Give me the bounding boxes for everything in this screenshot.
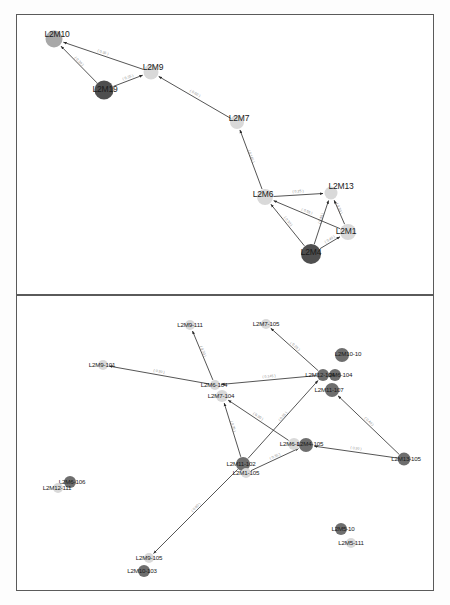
node-label: L2M1-105: [233, 469, 259, 476]
graph-edge: [251, 449, 298, 471]
node-label: L2M13: [329, 181, 354, 191]
graph-edge: [314, 446, 397, 458]
node-label: L2M9-111: [177, 321, 202, 328]
graph-edge: [271, 204, 304, 245]
edge-layer: [17, 296, 433, 590]
node-label: L2M1: [336, 226, 356, 236]
node-label: L2M4: [301, 247, 321, 257]
graph-edge: [224, 403, 241, 457]
graph-edge: [154, 469, 238, 553]
graph-edge: [320, 237, 340, 249]
graph-edge: [228, 400, 288, 440]
node-label: L2M9-101: [89, 361, 115, 368]
graph-edge: [314, 201, 328, 244]
node-label: L2M11-107: [314, 386, 343, 393]
node-label: L2M9: [143, 62, 163, 72]
node-label: L2M4-105: [297, 440, 323, 447]
node-label: L2M12-111: [43, 484, 72, 491]
upper-panel-canvas: ( 0.35 )( 0.30 )( 0.35 )( 0.60 )( 0.145 …: [17, 15, 433, 294]
node-label: L2M5-111: [338, 539, 363, 546]
graph-edge: [193, 331, 213, 380]
graph-edge: [240, 130, 262, 189]
graph-edge: [334, 200, 344, 224]
graph-edge: [159, 77, 231, 119]
graph-edge: [109, 366, 209, 384]
node-label: L2M10: [45, 29, 70, 39]
node-label: L2M5-10: [331, 525, 354, 532]
node-label: L2M12-104: [305, 371, 335, 378]
node-label: L2M13-105: [391, 455, 421, 462]
graph-edge: [63, 42, 143, 69]
graph-edge: [271, 328, 318, 370]
node-label: L2M10-10: [335, 350, 361, 357]
upper-network-panel: ( 0.35 )( 0.30 )( 0.35 )( 0.60 )( 0.145 …: [16, 14, 434, 295]
graph-edge: [338, 396, 399, 454]
node-label: L2M6: [253, 189, 273, 199]
lower-panel-canvas: ( 0.30 )( 0.25 )( 0.30 )( 0.145 )( 0.35 …: [17, 296, 433, 590]
graph-edge: [113, 75, 142, 86]
node-label: L2M7-104: [208, 392, 234, 399]
node-label: L2M11-102: [226, 460, 255, 467]
node-label: L2M7-105: [253, 320, 279, 327]
figure-root: ( 0.35 )( 0.30 )( 0.35 )( 0.60 )( 0.145 …: [0, 0, 450, 605]
node-label: L2M6-104: [201, 381, 227, 388]
lower-network-panel: ( 0.30 )( 0.25 )( 0.30 )( 0.145 )( 0.35 …: [16, 295, 434, 591]
node-label: L2M7: [229, 113, 249, 123]
node-label: L2M9-105: [136, 554, 162, 561]
graph-edge: [221, 376, 316, 385]
graph-edge: [273, 193, 323, 196]
edge-layer: [17, 15, 433, 294]
node-label: L2M10-103: [127, 567, 157, 574]
node-label: L2M19: [93, 84, 118, 94]
graph-edge: [274, 201, 340, 229]
